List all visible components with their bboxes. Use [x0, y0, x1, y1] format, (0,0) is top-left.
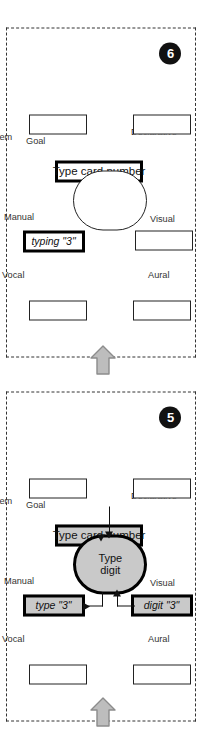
panel-5-arrowhead-visual-central	[113, 589, 121, 596]
panel-5-visual-box: digit "3"	[131, 594, 193, 616]
panel-6-vocal-box	[29, 300, 87, 320]
panel-5-manual-text: type "3"	[36, 599, 72, 610]
panel-5-badge: 5	[159, 406, 181, 428]
panel-5-manual-box: type "3"	[23, 594, 85, 616]
panel-5-connector-visual-central	[117, 605, 135, 606]
panel-6-aural-box	[133, 300, 191, 320]
panel-6-label-aural: Aural	[163, 254, 173, 294]
panel-5-connector-goal-central	[109, 506, 110, 534]
panel-6-visual-box	[135, 230, 193, 250]
panel-5-arrowhead-goal-central-tip	[105, 531, 113, 538]
panel-5-visual-text: digit "3"	[144, 599, 179, 610]
panel-5-label-problem: Problem	[0, 476, 7, 524]
panel-6: 6 Goal Type card number Declarative Prob…	[6, 27, 196, 357]
panel-5-vocal-box	[29, 664, 87, 684]
panel-5-central-text: Type digit	[98, 552, 122, 577]
panel-6-problem-box	[29, 114, 87, 134]
panel-6-label-problem: Problem	[0, 112, 7, 160]
panel-5-problem-box	[29, 478, 87, 498]
panel-5-connector-central-manual-b	[102, 592, 103, 606]
panel-5-arrowhead-central-manual	[83, 602, 90, 610]
panel-5-central-oval: Type digit	[73, 534, 147, 594]
panel-6-manual-text: typing "3"	[32, 235, 76, 246]
panel-5-declarative-box	[133, 478, 191, 498]
panel-6-central-oval	[73, 170, 147, 230]
panel-5-label-aural: Aural	[163, 618, 173, 658]
arrow-panel-5-to-panel-6	[90, 345, 116, 375]
panel-5-label-vocal: Vocal	[17, 618, 27, 658]
panel-5: 5 Goal Type card number Declarative Prob…	[6, 391, 196, 721]
panel-6-manual-box: typing "3"	[23, 230, 85, 252]
panel-6-badge: 6	[159, 42, 181, 64]
panel-6-declarative-box	[133, 114, 191, 134]
panel-6-label-vocal: Vocal	[17, 254, 27, 294]
arrow-into-panel-5	[90, 697, 116, 727]
panel-5-aural-box	[133, 664, 191, 684]
